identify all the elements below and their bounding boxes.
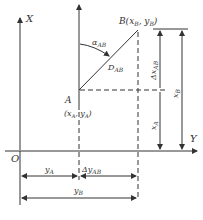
point-b-label: B(xB, yB) [118, 16, 158, 27]
point-a-label: A [64, 95, 72, 105]
origin-label: O [11, 153, 19, 164]
azimuth-label: αAB [92, 38, 107, 48]
x-a-label: xA [149, 120, 159, 130]
coordinate-diagram: X Y O αAB DAB B(xB, yB) A (xA, yA) ΔxAB … [0, 0, 203, 220]
point-a-coords: (xA, yA) [64, 109, 92, 119]
delta-x-label: ΔxAB [149, 60, 159, 81]
x-b-label: xB [171, 88, 181, 98]
y-b-label: yB [73, 186, 84, 196]
y-a-label: yA [44, 165, 55, 175]
y-axis-label: Y [190, 133, 198, 144]
x-axis-label: X [25, 13, 34, 24]
distance-label: DAB [107, 63, 124, 73]
delta-y-label: ΔyAB [81, 165, 102, 175]
line-ab [79, 30, 138, 90]
